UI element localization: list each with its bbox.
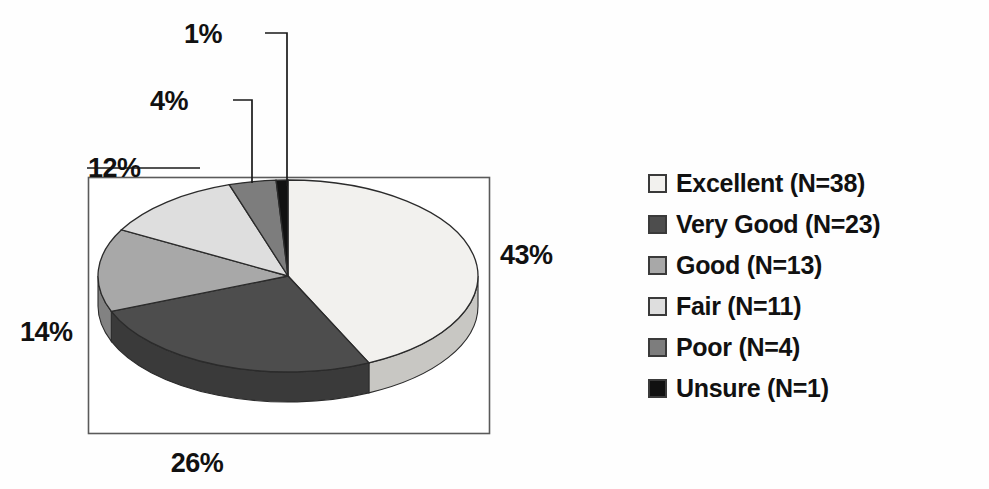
legend-item-unsure[interactable]: Unsure (N=1)	[648, 368, 978, 409]
label-unsure-pct: 1%	[184, 19, 223, 49]
legend-swatch-good	[648, 256, 667, 275]
legend: Excellent (N=38) Very Good (N=23) Good (…	[648, 163, 978, 409]
legend-label-fair: Fair (N=11)	[676, 292, 801, 321]
legend-swatch-unsure	[648, 379, 667, 398]
legend-label-unsure: Unsure (N=1)	[676, 374, 829, 403]
legend-item-fair[interactable]: Fair (N=11)	[648, 286, 978, 327]
legend-label-excellent: Excellent (N=38)	[676, 169, 865, 198]
legend-swatch-poor	[648, 338, 667, 357]
label-excellent-pct: 43%	[500, 240, 553, 270]
pie-chart-figure: 1% 4% 12% 14% 43% 26% Excellent (N=38) V…	[0, 0, 989, 489]
pie-slices	[98, 180, 478, 372]
legend-item-very-good[interactable]: Very Good (N=23)	[648, 204, 978, 245]
leader-line-unsure	[265, 33, 287, 186]
legend-swatch-fair	[648, 297, 667, 316]
legend-label-poor: Poor (N=4)	[676, 333, 800, 362]
legend-item-excellent[interactable]: Excellent (N=38)	[648, 163, 978, 204]
label-good-pct: 14%	[20, 317, 73, 347]
label-poor-pct: 4%	[150, 86, 189, 116]
legend-swatch-very-good	[648, 215, 667, 234]
label-very-good-pct: 26%	[171, 448, 224, 478]
legend-label-good: Good (N=13)	[676, 251, 822, 280]
legend-swatch-excellent	[648, 174, 667, 193]
legend-item-poor[interactable]: Poor (N=4)	[648, 327, 978, 368]
legend-label-very-good: Very Good (N=23)	[676, 210, 880, 239]
leader-line-poor	[233, 100, 252, 183]
legend-item-good[interactable]: Good (N=13)	[648, 245, 978, 286]
label-fair-pct: 12%	[88, 153, 141, 183]
